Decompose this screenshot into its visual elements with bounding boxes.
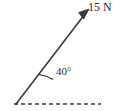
force-vector-diagram: 15 N 40° [0,0,115,111]
angle-arc [39,74,54,79]
angle-measure-label: 40° [56,65,71,77]
force-magnitude-label: 15 N [88,1,112,14]
force-vector-shaft [16,13,86,104]
diagram-canvas [0,0,115,111]
